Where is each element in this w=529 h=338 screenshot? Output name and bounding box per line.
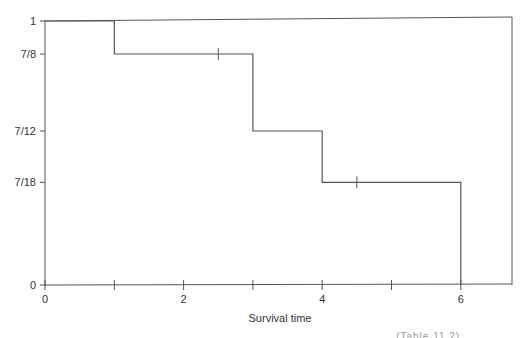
caption-fragment: ... ... ... ... ... ... ... ... ... ... … — [245, 330, 475, 338]
survival-curve — [45, 21, 461, 285]
x-axis-line — [45, 284, 512, 285]
x-tick-label: 2 — [181, 293, 187, 305]
y-tick-label: 7/8 — [21, 48, 36, 60]
kaplan-meier-chart: 07/187/127/81 0246 Survival time — [0, 0, 529, 338]
x-tick-label: 6 — [458, 293, 464, 305]
x-axis-title: Survival time — [249, 312, 312, 324]
x-tick-label: 4 — [319, 293, 325, 305]
frame-top — [45, 17, 512, 21]
y-axis-ticks: 07/187/127/81 — [15, 15, 45, 291]
y-tick-label: 0 — [30, 279, 36, 291]
x-tick-label: 0 — [42, 293, 48, 305]
y-tick-label: 7/12 — [15, 125, 36, 137]
y-tick-label: 7/18 — [15, 176, 36, 188]
plot-frame — [45, 17, 512, 285]
censor-marks — [218, 48, 357, 188]
y-tick-label: 1 — [30, 15, 36, 27]
